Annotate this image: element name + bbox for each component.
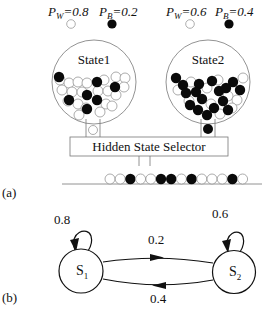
transition-s2-s1 xyxy=(103,279,213,285)
white-ball-icon xyxy=(67,20,76,29)
white-ball-icon xyxy=(197,174,207,184)
prob-s1-s2: 0.2 xyxy=(148,232,164,247)
white-ball-icon xyxy=(105,174,115,184)
prob-s2-s1: 0.4 xyxy=(150,291,167,306)
black-ball-icon xyxy=(166,174,176,184)
panel-b-label: (b) xyxy=(2,290,17,305)
white-ball-icon xyxy=(146,174,156,184)
dispensed-white-ball xyxy=(89,126,98,135)
output-sequence xyxy=(62,174,262,184)
svg-text:PW=0.6: PW=0.6 xyxy=(165,4,207,21)
state1-label: State1 xyxy=(78,52,111,67)
white-ball-icon xyxy=(207,174,217,184)
urn-state2: State2 xyxy=(166,40,250,137)
black-ball-icon xyxy=(227,174,237,184)
svg-text:PB=0.4: PB=0.4 xyxy=(214,4,254,21)
state2-label: State2 xyxy=(192,52,225,67)
white-ball-icon xyxy=(238,174,248,184)
pw-symbol: P xyxy=(47,4,56,19)
black-ball-icon xyxy=(186,174,196,184)
urn-state1: State1 xyxy=(52,40,136,137)
white-ball-icon xyxy=(186,20,195,29)
black-ball-icon xyxy=(224,19,233,28)
hidden-state-selector: Hidden State Selector xyxy=(70,137,228,166)
prob-s2-s2: 0.6 xyxy=(212,206,229,221)
legend-state1: PW=0.8 PB=0.2 xyxy=(47,4,138,29)
prob-s1-s1: 0.8 xyxy=(54,212,70,227)
svg-text:PB=0.2: PB=0.2 xyxy=(98,4,138,21)
panel-a-label: (a) xyxy=(2,185,16,200)
black-ball-icon xyxy=(107,19,116,28)
white-ball-icon xyxy=(115,174,125,184)
white-ball-icon xyxy=(217,174,227,184)
selector-label: Hidden State Selector xyxy=(92,139,206,154)
arrowhead-icon xyxy=(150,254,164,261)
hmm-figure: PW=0.8 PB=0.2 PW=0.6 PB=0.4 State1 xyxy=(0,0,265,313)
arrowhead-icon xyxy=(152,282,166,289)
legend-state2: PW=0.6 PB=0.4 xyxy=(165,4,254,29)
white-ball-icon xyxy=(176,174,186,184)
svg-text:PW=0.8: PW=0.8 xyxy=(47,4,89,21)
white-ball-icon xyxy=(136,174,146,184)
dispensed-black-ball xyxy=(203,124,213,134)
black-ball-icon xyxy=(156,174,166,184)
black-ball-icon xyxy=(125,174,135,184)
